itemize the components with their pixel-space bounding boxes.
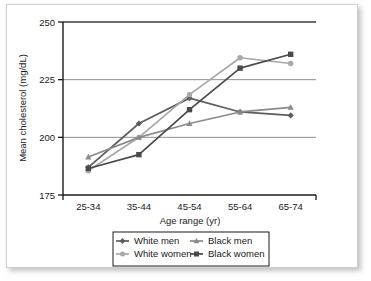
- x-axis-ticks: 25-3435-4445-5455-6465-74: [63, 195, 316, 212]
- x-axis-title: Age range (yr): [160, 215, 221, 226]
- data-point-55-64: [237, 55, 242, 60]
- legend-label: White men: [134, 235, 179, 246]
- legend-label: Black women: [208, 248, 265, 259]
- data-point-35-44: [136, 152, 141, 157]
- x-tick-label-35-44: 35-44: [127, 201, 151, 212]
- data-point-25-34: [86, 166, 91, 171]
- legend-swatch-marker: [194, 252, 199, 257]
- data-point-65-74: [288, 52, 293, 57]
- data-point-55-64: [237, 65, 242, 70]
- data-point-65-74: [288, 61, 293, 66]
- y-tick-label-225: 225: [39, 74, 55, 85]
- y-axis-ticks: 175200225250: [39, 17, 63, 201]
- data-point-45-54: [187, 107, 192, 112]
- x-tick-label-55-64: 55-64: [228, 201, 252, 212]
- chart-figure: 175200225250 25-3435-4445-5455-6465-74 M…: [0, 0, 371, 281]
- legend-label: Black men: [208, 235, 252, 246]
- legend-swatch-marker: [120, 252, 125, 257]
- chart-svg: 175200225250 25-3435-4445-5455-6465-74 M…: [0, 0, 371, 281]
- y-tick-label-175: 175: [39, 190, 55, 201]
- legend-label: White women: [134, 248, 192, 259]
- data-point-45-54: [187, 92, 192, 97]
- y-tick-label-200: 200: [39, 132, 55, 143]
- x-tick-label-25-34: 25-34: [76, 201, 100, 212]
- y-tick-label-250: 250: [39, 17, 55, 28]
- y-axis-title: Mean cholesterol (mg/dL): [17, 54, 28, 162]
- x-tick-label-45-54: 45-54: [177, 201, 201, 212]
- x-tick-label-65-74: 65-74: [279, 201, 303, 212]
